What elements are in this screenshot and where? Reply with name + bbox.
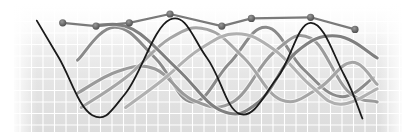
data-point-marker (307, 14, 314, 21)
data-point-marker (351, 26, 358, 33)
data-point-marker (218, 23, 225, 30)
wave-chart (0, 0, 416, 139)
data-point-marker (59, 19, 66, 26)
data-point-marker (248, 15, 255, 22)
data-point-marker (166, 10, 173, 17)
data-point-marker (126, 19, 133, 26)
data-point-marker (92, 23, 99, 30)
